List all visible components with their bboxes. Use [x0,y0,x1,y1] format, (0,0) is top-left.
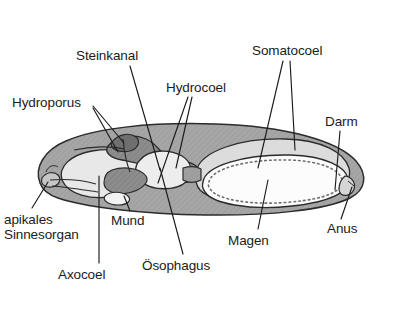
label-hydrocoel: Hydrocoel [166,80,226,95]
anatomical-figure: Steinkanal Somatocoel Hydrocoel Hydropor… [0,0,399,326]
label-axocoel: Axocoel [58,267,105,282]
label-somatocoel: Somatocoel [252,43,322,58]
label-hydroporus: Hydroporus [12,95,81,110]
label-mund: Mund [111,213,144,228]
label-oesophagus: Ösophagus [142,258,210,273]
leader-line-apikales-sinnesorgan [32,182,48,208]
label-steinkanal: Steinkanal [76,48,138,63]
label-darm: Darm [325,114,358,129]
label-apikales-sinnesorgan: apikales Sinnesorgan [4,212,79,242]
mund-mouth [104,192,129,205]
label-magen: Magen [228,233,269,248]
label-anus: Anus [327,221,357,236]
